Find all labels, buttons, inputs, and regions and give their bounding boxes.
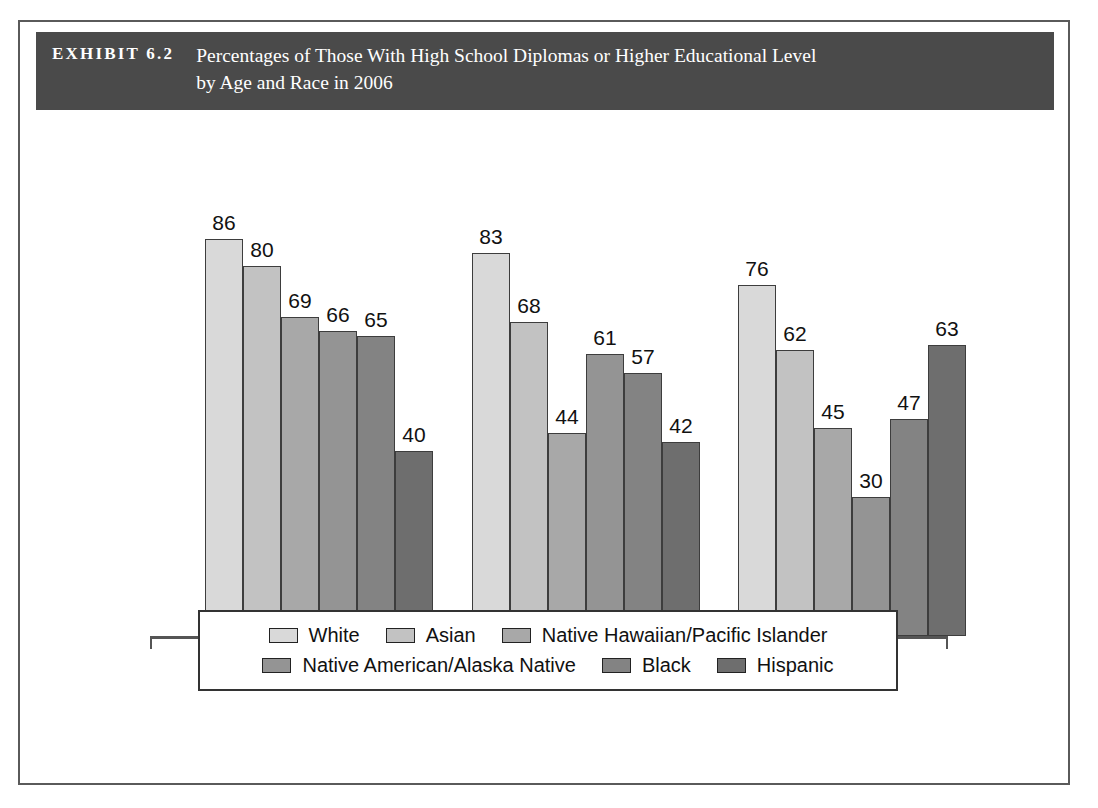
exhibit-title-line-2: by Age and Race in 2006 [196,69,816,96]
legend-item-asian[interactable]: Asian [386,624,476,647]
axis-tick-1 [150,636,152,649]
bar-slot: 76 [738,176,776,636]
legend-item-black[interactable]: Black [602,654,691,677]
bar-slot: 44 [548,176,586,636]
legend-swatch-icon [502,628,531,643]
legend-row-1: WhiteAsianNative Hawaiian/Pacific Island… [214,620,882,650]
bar-slot: 63 [928,176,966,636]
bar-native-hawaiian-pacific-islander[interactable] [281,317,319,636]
bar-slot: 65 [357,176,395,636]
bar-group-1: 868069666540 [205,176,433,636]
bar-value-label: 62 [776,322,814,346]
bar-value-label: 47 [890,391,928,415]
legend-item-white[interactable]: White [269,624,360,647]
bar-slot: 30 [852,176,890,636]
legend-item-native-hawaiian-pacific-islander[interactable]: Native Hawaiian/Pacific Islander [502,624,828,647]
legend-row-2: Native American/Alaska NativeBlackHispan… [214,650,882,680]
bar-native-american-alaska-native[interactable] [586,354,624,636]
bar-value-label: 69 [281,289,319,313]
exhibit-header-inner: EXHIBIT 6.2 Percentages of Those With Hi… [52,42,1054,96]
legend-swatch-icon [386,628,415,643]
legend-label: White [309,624,360,647]
bar-slot: 40 [395,176,433,636]
legend-item-hispanic[interactable]: Hispanic [717,654,834,677]
bar-value-label: 86 [205,211,243,235]
bar-asian[interactable] [243,266,281,636]
bar-black[interactable] [890,419,928,636]
legend-label: Hispanic [757,654,834,677]
bar-value-label: 30 [852,469,890,493]
bar-group-3: 766245304763 [738,176,966,636]
bar-group-2: 836844615742 [472,176,700,636]
bar-native-hawaiian-pacific-islander[interactable] [814,428,852,636]
bar-value-label: 57 [624,345,662,369]
legend-label: Asian [426,624,476,647]
legend-item-native-american-alaska-native[interactable]: Native American/Alaska Native [262,654,575,677]
exhibit-title-line-1: Percentages of Those With High School Di… [196,42,816,69]
exhibit-header-band: EXHIBIT 6.2 Percentages of Those With Hi… [36,32,1054,110]
bar-slot: 68 [510,176,548,636]
exhibit-frame: EXHIBIT 6.2 Percentages of Those With Hi… [18,20,1070,785]
legend-swatch-icon [262,658,291,673]
bar-value-label: 68 [510,294,548,318]
bar-slot: 62 [776,176,814,636]
legend-swatch-icon [602,658,631,673]
bar-value-label: 65 [357,308,395,332]
bar-slot: 61 [586,176,624,636]
bar-slot: 86 [205,176,243,636]
bar-black[interactable] [357,336,395,636]
bar-white[interactable] [472,253,510,636]
bar-hispanic[interactable] [928,345,966,636]
bar-native-hawaiian-pacific-islander[interactable] [548,433,586,636]
bar-slot: 42 [662,176,700,636]
legend-swatch-icon [717,658,746,673]
bar-white[interactable] [205,239,243,636]
bar-value-label: 66 [319,303,357,327]
bar-value-label: 76 [738,257,776,281]
bar-white[interactable] [738,285,776,636]
axis-tick-4 [946,636,948,649]
legend-swatch-icon [269,628,298,643]
bar-slot: 57 [624,176,662,636]
legend-label: Black [642,654,691,677]
legend-label: Native American/Alaska Native [302,654,575,677]
bar-slot: 66 [319,176,357,636]
bar-black[interactable] [624,373,662,636]
bar-asian[interactable] [510,322,548,636]
bar-value-label: 42 [662,414,700,438]
bar-slot: 45 [814,176,852,636]
bar-value-label: 83 [472,225,510,249]
bar-value-label: 40 [395,423,433,447]
bar-hispanic[interactable] [395,451,433,636]
bar-value-label: 61 [586,326,624,350]
bar-slot: 80 [243,176,281,636]
bar-native-american-alaska-native[interactable] [319,331,357,636]
bar-asian[interactable] [776,350,814,636]
bar-slot: 47 [890,176,928,636]
bar-slot: 83 [472,176,510,636]
exhibit-number: EXHIBIT 6.2 [52,42,174,64]
exhibit-title: Percentages of Those With High School Di… [196,42,816,96]
bar-value-label: 44 [548,405,586,429]
bar-value-label: 63 [928,317,966,341]
legend-label: Native Hawaiian/Pacific Islander [542,624,828,647]
bar-value-label: 80 [243,238,281,262]
bar-slot: 69 [281,176,319,636]
bar-value-label: 45 [814,400,852,424]
bar-hispanic[interactable] [662,442,700,636]
chart-legend: WhiteAsianNative Hawaiian/Pacific Island… [198,610,898,691]
